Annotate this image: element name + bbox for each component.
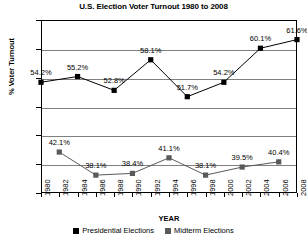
x-tick-mark [297,193,298,197]
data-point-marker [112,88,117,93]
data-point-marker [166,155,171,160]
x-tick-mark [132,193,133,197]
data-label: 42.1% [49,139,70,147]
data-point-marker [93,173,98,178]
legend-item-1[interactable]: Midterm Elections [165,226,234,235]
data-point-marker [148,57,153,62]
data-point-marker [294,37,299,42]
data-label: 38.1% [195,162,216,170]
data-point-marker [221,80,226,85]
series-layer [41,20,297,193]
data-point-marker [75,74,80,79]
x-tick-mark [206,193,207,197]
x-tick-mark [151,193,152,197]
data-label: 52.8% [104,77,125,85]
data-point-marker [258,46,263,51]
x-tick-mark [114,193,115,197]
x-tick-mark [59,193,60,197]
data-point-marker [185,94,190,99]
x-axis-title: YEAR [41,214,297,223]
data-label: 54.2% [213,69,234,77]
x-tick-mark [187,193,188,197]
x-tick-mark [279,193,280,197]
data-label: 54.2% [30,69,51,77]
data-label: 38.4% [122,160,143,168]
x-tick-mark [41,193,42,197]
legend-item-0[interactable]: Presidential Elections [73,226,154,235]
y-axis-title: % Voter Turnout [7,12,16,122]
legend-label: Presidential Elections [82,226,154,235]
data-point-marker [203,173,208,178]
data-label: 61.6% [286,27,307,35]
chart-title: U.S. Election Voter Turnout 1980 to 2008 [0,2,307,12]
legend-swatch-icon [73,228,79,234]
data-point-marker [130,171,135,176]
x-tick-mark [96,193,97,197]
x-tick-mark [169,193,170,197]
x-tick-mark [242,193,243,197]
data-label: 39.5% [232,154,253,162]
data-point-marker [276,159,281,164]
data-point-marker [57,149,62,154]
data-label: 41.1% [158,145,179,153]
x-tick-mark [78,193,79,197]
chart-container: U.S. Election Voter Turnout 1980 to 2008… [0,0,307,241]
data-label: 60.1% [250,35,271,43]
data-label: 51.7% [177,84,198,92]
legend-swatch-icon [165,228,171,234]
data-label: 55.2% [67,64,88,72]
data-point-marker [38,80,43,85]
data-label: 38.1% [85,162,106,170]
x-tick-mark [224,193,225,197]
x-tick-mark [260,193,261,197]
data-label: 40.4% [268,149,289,157]
chart-legend: Presidential ElectionsMidterm Elections [0,226,307,235]
data-label: 58.1% [140,47,161,55]
data-point-marker [240,164,245,169]
x-tick-label: 2008 [300,178,307,196]
legend-label: Midterm Elections [174,226,234,235]
